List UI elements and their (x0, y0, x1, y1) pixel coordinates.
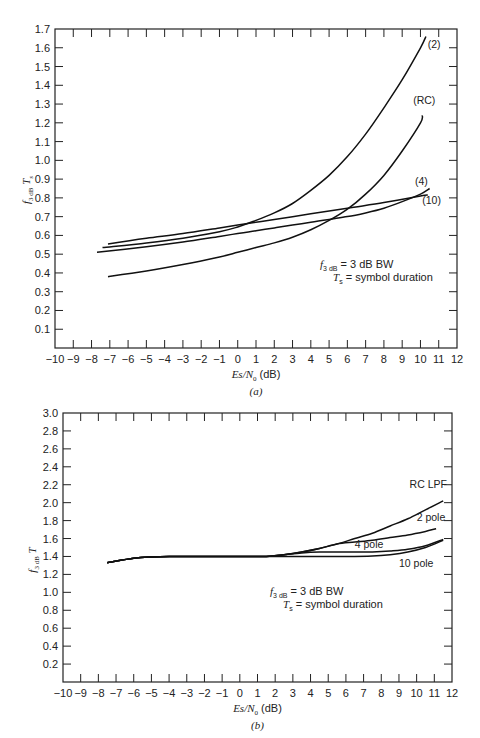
y-tick-label: 1.4 (35, 79, 50, 91)
y-tick-label: 1.4 (43, 550, 58, 562)
y-tick-label: 2.4 (43, 461, 58, 473)
x-axis-label: Es/N0 (dB) (232, 702, 282, 717)
series-line-10 (108, 195, 428, 244)
annotation-line-1: f3 dB = 3 dB BW (270, 585, 344, 599)
annotation-line-2: Ts = symbol duration (333, 271, 433, 285)
y-tick-label: 0.6 (43, 622, 58, 634)
series-label: 2 pole (417, 511, 446, 523)
y-tick-label: 1.3 (35, 98, 50, 110)
x-tick-label: −8 (92, 687, 105, 699)
y-tick-label: 2.8 (43, 425, 58, 437)
x-tick-label: 7 (361, 687, 367, 699)
x-tick-label: −1 (213, 353, 226, 365)
series-label: (2) (428, 38, 441, 50)
y-tick-label: 0.2 (43, 658, 58, 670)
panel-caption: (a) (250, 385, 263, 398)
series-line-4-pole (107, 539, 443, 562)
x-tick-label: −3 (180, 687, 193, 699)
x-tick-label: 8 (381, 353, 387, 365)
chart-panel-b: −10−9−8−7−6−5−4−3−2−101234567891011120.2… (26, 407, 458, 732)
x-tick-label: 7 (363, 353, 369, 365)
y-tick-label: 0.9 (35, 173, 50, 185)
x-tick-label: −4 (163, 687, 176, 699)
x-tick-label: −5 (145, 687, 158, 699)
x-tick-label: 11 (433, 353, 444, 365)
y-tick-label: 0.1 (35, 323, 50, 335)
y-tick-label: 1.2 (43, 568, 58, 580)
y-tick-label: 2.2 (43, 479, 58, 491)
x-tick-label: 10 (411, 687, 423, 699)
x-tick-label: −9 (74, 687, 87, 699)
plot-frame (55, 29, 457, 348)
series-label: (10) (422, 194, 441, 206)
x-tick-label: 12 (446, 687, 458, 699)
y-tick-label: 3.0 (43, 407, 58, 419)
y-tick-label: 1.7 (35, 23, 50, 35)
y-tick-label: 1.8 (43, 515, 58, 527)
x-tick-label: −5 (140, 353, 153, 365)
x-tick-label: −2 (198, 687, 211, 699)
annotation-line-2: Ts = symbol duration (283, 598, 383, 612)
y-tick-label: 0.3 (35, 286, 50, 298)
plot-frame (63, 413, 452, 682)
x-tick-label: 4 (308, 353, 314, 365)
x-tick-label: 6 (343, 687, 349, 699)
y-axis-label: f3 dB Ts (20, 176, 35, 204)
series-label: (4) (415, 175, 428, 187)
x-tick-label: 4 (307, 687, 313, 699)
x-tick-label: −10 (54, 687, 73, 699)
x-tick-label: −6 (122, 353, 135, 365)
chart-panel-a: −10−9−8−7−6−5−4−3−2−101234567891011120.1… (20, 23, 463, 398)
x-tick-label: 2 (272, 687, 278, 699)
series-label: 10 pole (399, 557, 434, 569)
x-tick-label: 1 (254, 687, 260, 699)
y-tick-label: 1.1 (35, 136, 50, 148)
annotation-line-1: f3 dB = 3 dB BW (320, 258, 394, 272)
x-tick-label: −3 (177, 353, 190, 365)
x-tick-label: 0 (237, 687, 243, 699)
x-tick-label: 10 (414, 353, 426, 365)
series-line-2 (103, 37, 426, 248)
y-tick-label: 1.2 (35, 117, 50, 129)
series-line-rc (108, 115, 423, 276)
y-tick-label: 1.6 (43, 533, 58, 545)
figure: −10−9−8−7−6−5−4−3−2−101234567891011120.1… (0, 0, 480, 738)
y-tick-label: 2.0 (43, 497, 58, 509)
x-tick-label: −2 (195, 353, 208, 365)
y-tick-label: 0.2 (35, 304, 50, 316)
x-tick-label: 5 (326, 353, 332, 365)
x-tick-label: 9 (396, 687, 402, 699)
y-tick-label: 0.8 (43, 604, 58, 616)
x-tick-label: −7 (104, 353, 117, 365)
x-tick-label: −8 (85, 353, 98, 365)
y-axis-label: f3 dB T (26, 546, 41, 572)
panel-caption: (b) (251, 719, 264, 732)
series-line-2-pole (107, 529, 436, 563)
x-tick-label: −9 (67, 353, 80, 365)
x-tick-label: 0 (235, 353, 241, 365)
x-tick-label: 1 (253, 353, 259, 365)
x-tick-label: −1 (216, 687, 229, 699)
series-label: 4 pole (355, 538, 384, 550)
y-tick-label: 0.5 (35, 248, 50, 260)
x-tick-label: 5 (325, 687, 331, 699)
series-line-rc-lpf (107, 501, 443, 563)
x-tick-label: 8 (378, 687, 384, 699)
y-tick-label: 0.6 (35, 229, 50, 241)
x-tick-label: −4 (158, 353, 171, 365)
x-tick-label: −6 (127, 687, 140, 699)
x-tick-label: 3 (289, 353, 295, 365)
x-tick-label: 2 (271, 353, 277, 365)
series-label: (RC) (413, 94, 435, 106)
y-tick-label: 0.7 (35, 211, 50, 223)
series-label: RC LPF (410, 478, 447, 490)
y-tick-label: 1.0 (43, 586, 58, 598)
x-tick-label: 11 (429, 687, 440, 699)
y-tick-label: 1.5 (35, 61, 50, 73)
y-tick-label: 2.6 (43, 443, 58, 455)
x-tick-label: −10 (46, 353, 65, 365)
y-tick-label: 0.8 (35, 192, 50, 204)
y-tick-label: 0.4 (43, 640, 58, 652)
y-tick-label: 0.4 (35, 267, 50, 279)
x-axis-label: Es/N0 (dB) (231, 368, 281, 383)
